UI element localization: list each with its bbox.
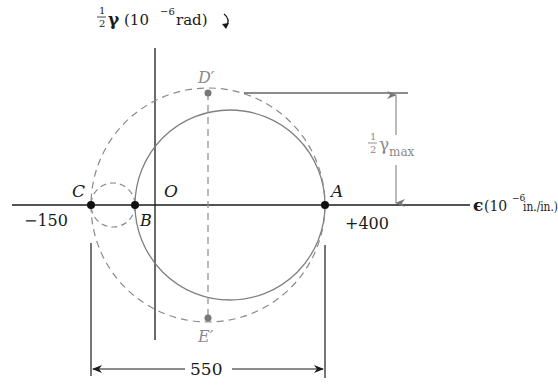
label-o: O [164, 181, 178, 201]
y-label-units: (10 [124, 11, 149, 29]
point-a [321, 201, 329, 209]
point-c [87, 201, 95, 209]
y-label-exp: −6 [160, 6, 175, 17]
x-label-units: (10 [484, 198, 507, 214]
y-label-units-end: rad) [176, 11, 208, 29]
mohr-circle-diagram: 1 2 γ (10 −6 rad) ϵ (10 −6 in./in.) C −1… [0, 0, 558, 389]
y-label-frac-num: 1 [99, 5, 105, 16]
width-dimension-label: 550 [190, 359, 222, 379]
x-label-symbol: ϵ [473, 195, 483, 215]
gamma-max-frac-den: 2 [370, 144, 376, 155]
label-b: B [139, 211, 152, 230]
point-e-prime [205, 315, 212, 322]
gamma-max-symbol: γ [379, 134, 389, 154]
label-e-prime: E′ [197, 327, 214, 346]
x-label-units-end: in./in.) [523, 200, 558, 214]
point-d-prime [205, 90, 212, 97]
y-label-symbol: γ [108, 9, 120, 29]
gamma-max-frac-num: 1 [370, 131, 376, 142]
label-c: C [72, 181, 85, 201]
label-a: A [329, 181, 343, 201]
gamma-max-subscript: max [389, 145, 415, 159]
rotation-arrow-head [222, 23, 229, 29]
y-label-frac-den: 2 [99, 18, 105, 29]
value-c: −150 [24, 211, 68, 230]
label-d-prime: D′ [197, 68, 215, 87]
point-b [131, 201, 139, 209]
value-a: +400 [345, 214, 389, 233]
